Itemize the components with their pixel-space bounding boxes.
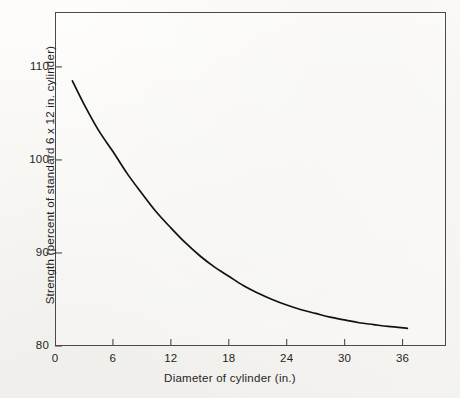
- x-axis-tick-label: 36: [388, 352, 418, 364]
- x-axis-title: Diameter of cylinder (in.): [0, 372, 460, 384]
- x-axis-tick-label: 30: [330, 352, 360, 364]
- x-axis-tick-label: 12: [156, 352, 186, 364]
- x-axis-tick-label: 24: [272, 352, 302, 364]
- x-axis-ticks: [113, 339, 403, 346]
- x-axis-tick-label: 6: [98, 352, 128, 364]
- x-axis-tick-label: 0: [40, 352, 70, 364]
- plot-canvas: [0, 0, 460, 398]
- y-axis-ticks: [55, 67, 62, 346]
- y-axis-tick-label: 80: [17, 339, 49, 351]
- data-curve-strength-vs-diameter: [72, 81, 407, 328]
- x-axis-tick-label: 18: [214, 352, 244, 364]
- y-axis-title: Strength (percent of standard 6 x 12 in.…: [44, 25, 56, 325]
- figure-root: 8090100110 061218243036 Diameter of cyli…: [0, 0, 460, 398]
